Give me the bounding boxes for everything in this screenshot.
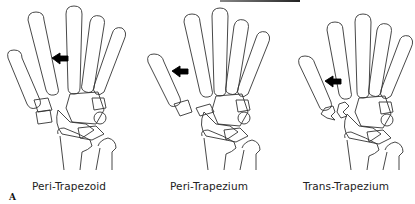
panel-caption: Peri-Trapezoid bbox=[0, 180, 138, 192]
panel-caption: Trans-Trapezium bbox=[277, 180, 415, 192]
panel-peri-trapezium: Peri-Trapezium bbox=[140, 0, 278, 204]
panel-trans-trapezium: Trans-Trapezium bbox=[277, 0, 415, 204]
hand-skeleton-diagram bbox=[140, 0, 278, 204]
arrow-left-icon bbox=[172, 66, 188, 77]
arrow-left-icon bbox=[52, 53, 68, 64]
panel-peri-trapezoid: Peri-Trapezoid bbox=[0, 0, 138, 204]
hand-skeleton-diagram bbox=[0, 0, 138, 204]
hand-skeleton-diagram bbox=[277, 0, 415, 204]
arrow-left-icon bbox=[325, 76, 341, 87]
figure-label: A bbox=[9, 192, 16, 202]
panel-caption: Peri-Trapezium bbox=[140, 180, 278, 192]
